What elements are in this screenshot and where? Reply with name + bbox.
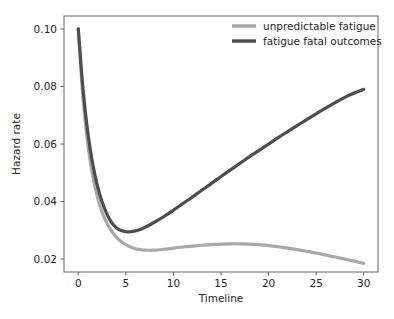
- legend-label-unpredictable-fatigue: unpredictable fatigue: [263, 20, 376, 32]
- y-axis-ticks: 0.020.040.060.080.10: [34, 23, 64, 265]
- y-tick-label: 0.08: [34, 80, 57, 92]
- y-tick-label: 0.04: [34, 195, 58, 207]
- x-tick-label: 5: [123, 277, 130, 289]
- y-axis-title: Hazard rate: [10, 113, 22, 175]
- x-tick-label: 20: [262, 277, 275, 289]
- x-tick-label: 25: [309, 277, 322, 289]
- x-tick-label: 15: [214, 277, 227, 289]
- x-tick-label: 0: [75, 277, 82, 289]
- plot-background: [64, 16, 378, 272]
- x-tick-label: 10: [167, 277, 180, 289]
- y-tick-label: 0.02: [34, 253, 57, 265]
- hazard-rate-line-chart: 051015202530 0.020.040.060.080.10 Timeli…: [0, 0, 394, 319]
- x-tick-label: 30: [357, 277, 370, 289]
- y-tick-label: 0.10: [34, 23, 57, 35]
- x-axis-title: Timeline: [198, 292, 244, 304]
- y-tick-label: 0.06: [34, 138, 58, 150]
- chart-figure: 051015202530 0.020.040.060.080.10 Timeli…: [0, 0, 394, 319]
- x-axis-ticks: 051015202530: [75, 272, 370, 289]
- legend-label-fatigue-fatal-outcomes: fatigue fatal outcomes: [263, 35, 382, 47]
